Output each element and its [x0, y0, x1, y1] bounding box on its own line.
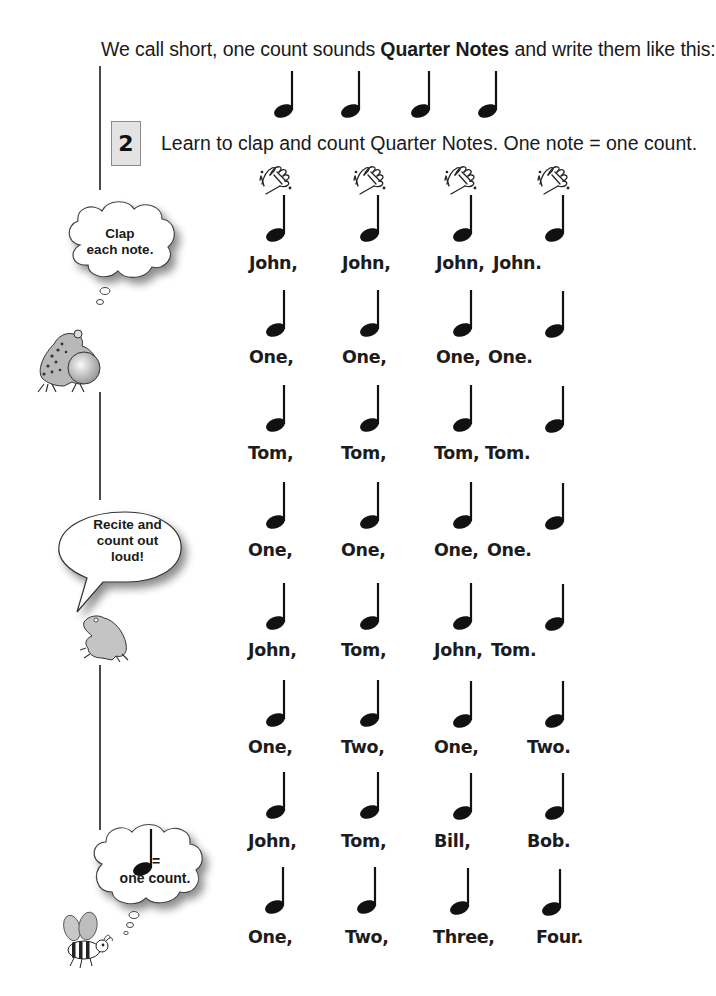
count-word: One, — [248, 540, 293, 560]
quarter-note-icon — [543, 385, 567, 433]
clapping-hands-icon — [258, 164, 294, 196]
count-word: John, — [249, 253, 298, 273]
bubble-line: Recite and — [70, 517, 185, 533]
count-word: Four. — [536, 927, 583, 947]
count-word: One, — [248, 927, 293, 947]
margin-line-2 — [99, 392, 101, 500]
count-word: John, — [342, 253, 391, 273]
quarter-note-icon — [264, 194, 288, 242]
toad-illustration — [30, 322, 105, 394]
intro-text-after: and write them like this: — [509, 38, 716, 60]
quarter-note-icon — [264, 679, 288, 727]
quarter-note-icon — [451, 289, 475, 337]
count-word: One, — [248, 737, 293, 757]
bubble-line: each note. — [70, 242, 170, 258]
count-word: One, — [342, 347, 387, 367]
count-word: One, — [434, 540, 479, 560]
count-word: Tom, — [434, 443, 479, 463]
bubble-recite-text: Recite and count out loud! — [70, 517, 185, 565]
step-instruction: Learn to clap and count Quarter Notes. O… — [161, 132, 697, 155]
quarter-note-icon — [543, 482, 567, 530]
bee-illustration — [58, 910, 118, 970]
count-word: Tom, — [248, 443, 293, 463]
quarter-note-icon — [358, 679, 382, 727]
quarter-note-icon — [476, 70, 500, 118]
quarter-note-icon — [264, 771, 288, 819]
quarter-note-icon — [339, 70, 363, 118]
quarter-note-icon — [451, 772, 475, 820]
count-word: John. — [493, 253, 542, 273]
quarter-note-icon — [358, 771, 382, 819]
quarter-note-icon — [358, 582, 382, 630]
intro-text-before: We call short, one count sounds — [101, 38, 380, 60]
quarter-note-icon — [448, 867, 472, 915]
equals-sign: = — [152, 853, 160, 870]
count-word: Two, — [341, 737, 385, 757]
count-word: Two, — [345, 927, 389, 947]
count-word: One, — [434, 737, 479, 757]
quarter-note-icon — [451, 384, 475, 432]
count-word: John, — [248, 831, 297, 851]
quarter-note-icon — [540, 868, 564, 916]
bubble-one-count-text: one count. — [100, 870, 210, 887]
quarter-note-icon — [272, 70, 296, 118]
count-word: Two. — [527, 737, 571, 757]
count-word: John, — [436, 253, 485, 273]
count-word: John, — [248, 640, 297, 660]
quarter-note-icon — [543, 290, 567, 338]
frog-illustration — [80, 612, 135, 664]
quarter-note-icon — [543, 583, 567, 631]
quarter-note-icon — [263, 866, 287, 914]
bubble-clap-text: Clap each note. — [70, 226, 170, 258]
count-word: Tom, — [341, 443, 386, 463]
margin-line-1b — [99, 180, 101, 190]
intro-bold-term: Quarter Notes — [380, 38, 509, 60]
bubble-line: count out — [70, 533, 185, 549]
quarter-note-icon — [409, 70, 433, 118]
quarter-note-icon — [543, 680, 567, 728]
quarter-note-icon — [358, 384, 382, 432]
quarter-note-icon — [451, 481, 475, 529]
quarter-note-icon — [358, 194, 382, 242]
quarter-note-icon — [358, 289, 382, 337]
bubble-line: Clap — [70, 226, 170, 242]
quarter-note-icon — [451, 194, 475, 242]
quarter-note-icon — [264, 289, 288, 337]
count-word: Tom. — [485, 443, 530, 463]
quarter-note-icon — [358, 481, 382, 529]
quarter-note-icon — [543, 772, 567, 820]
count-word: One. — [488, 347, 533, 367]
intro-sentence: We call short, one count sounds Quarter … — [101, 38, 716, 61]
clapping-hands-icon — [536, 164, 572, 196]
quarter-note-icon — [451, 582, 475, 630]
count-word: Tom. — [491, 640, 536, 660]
count-word: Tom, — [341, 640, 386, 660]
margin-line-1 — [99, 66, 101, 186]
quarter-note-icon — [264, 582, 288, 630]
quarter-note-icon — [451, 680, 475, 728]
count-word: Three, — [433, 927, 495, 947]
count-word: Tom, — [341, 831, 386, 851]
count-word: One, — [436, 347, 481, 367]
count-word: Bob. — [527, 831, 570, 851]
quarter-note-icon — [264, 384, 288, 432]
count-word: One. — [487, 540, 532, 560]
quarter-note-icon — [264, 481, 288, 529]
step-number-badge: 2 — [111, 121, 141, 166]
count-word: John, — [434, 640, 483, 660]
quarter-note-icon — [355, 866, 379, 914]
margin-line-3 — [99, 665, 101, 775]
clapping-hands-icon — [443, 164, 479, 196]
count-word: One, — [249, 347, 294, 367]
bubble-line: loud! — [70, 549, 185, 565]
quarter-note-icon — [543, 194, 567, 242]
count-word: Bill, — [434, 831, 470, 851]
clapping-hands-icon — [352, 164, 388, 196]
count-word: One, — [341, 540, 386, 560]
